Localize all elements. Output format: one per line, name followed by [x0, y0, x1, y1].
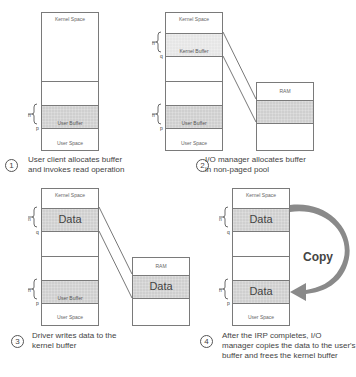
brace-icons — [28, 32, 228, 299]
mapping-lines — [99, 32, 256, 298]
diagram-lines — [0, 0, 356, 377]
copy-arrow-icon — [290, 205, 350, 301]
